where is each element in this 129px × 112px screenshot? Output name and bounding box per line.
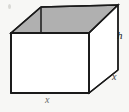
label-width-x: x [45, 95, 49, 105]
box-illustration [0, 0, 129, 112]
front-face [11, 33, 89, 93]
label-height-h: h [117, 30, 123, 41]
geometry-figure: h x x [0, 0, 129, 112]
label-depth-x: x [112, 72, 116, 82]
scan-artifact [8, 4, 11, 9]
